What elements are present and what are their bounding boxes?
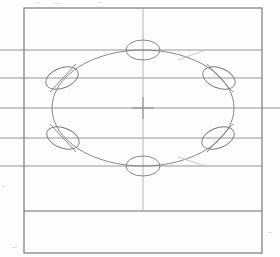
faint-arc-bottom-right xyxy=(178,157,205,166)
center-cross-mark xyxy=(132,97,154,119)
drawing-vector-layer xyxy=(0,0,280,257)
engineering-drawing-canvas xyxy=(0,0,280,257)
